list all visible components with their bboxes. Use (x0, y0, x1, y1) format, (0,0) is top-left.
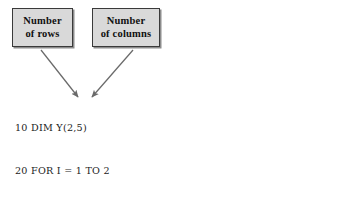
callout-box-number-of-columns: Number of columns (92, 8, 160, 47)
callout-box-number-of-rows: Number of rows (12, 8, 73, 47)
arrow-columns (92, 50, 133, 97)
basic-code-listing: 10 DIM Y(2,5) 20 FOR I = 1 TO 2 30 FOR J… (15, 93, 280, 204)
callout-columns-line1: Number (107, 15, 146, 28)
array-dim-diagram: —— —— — — ——— Number of rows Number of c… (0, 0, 339, 204)
arrow-rows (41, 50, 78, 97)
code-line: 10 DIM Y(2,5) (15, 121, 280, 135)
callout-rows-line1: Number (23, 15, 62, 28)
code-line: 20 FOR I = 1 TO 2 (15, 164, 280, 178)
callout-rows-line2: of rows (25, 28, 59, 41)
top-edge-text-fragment: —— —— — — ——— (3, 0, 78, 1)
callout-columns-line2: of columns (101, 28, 152, 41)
